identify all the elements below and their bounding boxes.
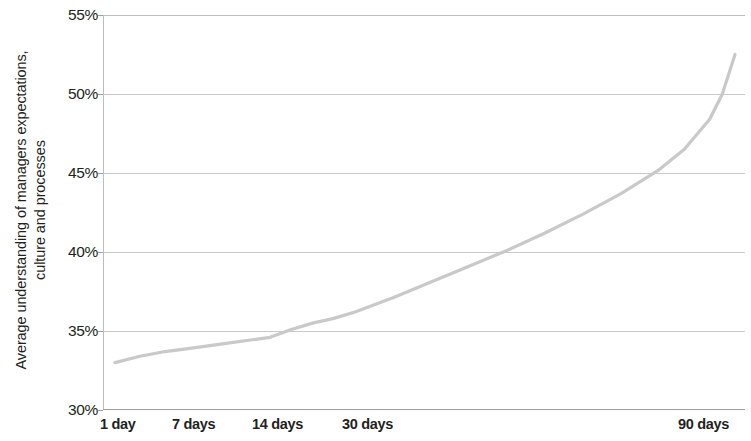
x-tick-label: 90 days — [678, 416, 729, 432]
y-tick-label: 35% — [46, 322, 98, 340]
y-tick-mark — [98, 410, 103, 411]
x-tick-label: 1 day — [100, 416, 136, 432]
x-tick-label: 7 days — [172, 416, 215, 432]
line-chart: Average understanding of managers expect… — [0, 0, 751, 441]
y-tick-label: 45% — [46, 164, 98, 182]
y-axis-title-line-1: Average understanding of managers expect… — [12, 50, 31, 369]
x-axis-tick-labels: 1 day7 days14 days30 days90 days — [0, 416, 751, 441]
series-line-average-understanding — [103, 15, 745, 410]
x-tick-label: 30 days — [342, 416, 393, 432]
y-tick-label: 50% — [46, 85, 98, 103]
series-polyline — [115, 55, 735, 363]
plot-area — [103, 15, 745, 410]
y-tick-label: 55% — [46, 6, 98, 24]
y-tick-label: 40% — [46, 243, 98, 261]
x-tick-label: 14 days — [252, 416, 303, 432]
y-axis-tick-labels: 55%50%45%40%35%30% — [40, 0, 98, 441]
